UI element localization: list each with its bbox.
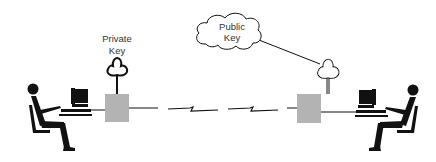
- left-monitor: [73, 89, 88, 103]
- left-user-head: [28, 84, 39, 95]
- left-keyboard: [61, 109, 91, 112]
- cloud-to-key-link: [259, 40, 320, 64]
- public-key-icon: [318, 60, 338, 94]
- left-encryptor-box: [105, 94, 129, 122]
- private-key-icon: [107, 58, 127, 94]
- left-desk: [59, 114, 92, 116]
- right-computer: [355, 89, 388, 117]
- right-user-head: [408, 85, 419, 96]
- left-user-figure: [28, 84, 76, 152]
- left-computer: [59, 88, 92, 116]
- lightning-link: [168, 107, 278, 111]
- public-key-label-line2: Key: [224, 32, 240, 44]
- right-encryptor-box: [297, 94, 321, 123]
- right-desk: [355, 115, 388, 117]
- right-user-figure: [369, 85, 419, 152]
- right-keyboard: [356, 110, 386, 113]
- right-monitor: [359, 90, 374, 104]
- public-key-diagram: [0, 0, 436, 162]
- private-key-label-line2: Key: [109, 45, 125, 57]
- private-key-label-line1: Private: [102, 33, 132, 45]
